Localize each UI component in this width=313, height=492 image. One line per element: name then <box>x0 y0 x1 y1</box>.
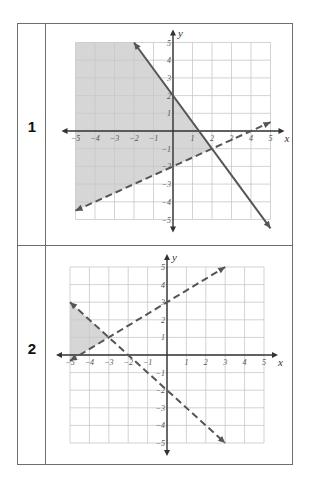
y-tick-label: −3 <box>156 404 165 413</box>
axis-arrow-icon <box>164 450 170 456</box>
y-tick-label: 4 <box>161 281 165 290</box>
x-tick-label: −1 <box>143 358 152 367</box>
y-tick-label: −4 <box>156 421 165 430</box>
x-axis-label: x <box>277 356 283 368</box>
x-tick-label: 5 <box>262 358 266 367</box>
axis-arrow-icon <box>164 254 170 260</box>
line-arrow-icon <box>218 267 226 273</box>
axis-arrow-icon <box>56 352 62 358</box>
y-tick-label: 1 <box>161 333 165 342</box>
x-tick-label: −2 <box>123 358 132 367</box>
x-tick-label: 2 <box>204 358 208 367</box>
y-tick-label: −1 <box>156 369 165 378</box>
graph-2: −5−4−3−2−11234554321−1−2−3−4−5xy <box>0 0 313 492</box>
y-axis-label: y <box>171 251 177 263</box>
y-tick-label: 2 <box>161 316 165 325</box>
x-tick-label: 1 <box>184 358 188 367</box>
y-tick-label: −5 <box>156 439 165 448</box>
x-tick-label: 3 <box>222 358 227 367</box>
y-tick-label: 5 <box>161 263 165 272</box>
x-tick-label: −4 <box>85 358 94 367</box>
x-tick-label: −3 <box>104 358 113 367</box>
x-tick-label: 4 <box>243 358 247 367</box>
